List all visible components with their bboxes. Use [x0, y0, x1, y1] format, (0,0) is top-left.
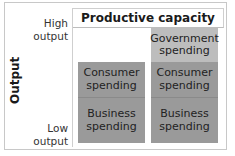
- y-label-high-line1: High: [20, 17, 68, 30]
- y-label-high-line2: output: [20, 30, 68, 43]
- label-line: spending: [86, 121, 136, 134]
- header-productive-capacity: Productive capacity: [72, 8, 224, 28]
- label-line: Consumer: [156, 67, 212, 80]
- y-label-low-line1: Low: [20, 122, 68, 135]
- label-line: spending: [83, 80, 139, 93]
- y-label-low: Low output: [20, 122, 68, 148]
- y-label-high: High output: [20, 17, 68, 43]
- left-consumer-spending: Consumer spending: [78, 62, 145, 97]
- axis-title-output: Output: [8, 57, 22, 104]
- label-line: spending: [150, 45, 219, 58]
- label-line: spending: [159, 121, 209, 134]
- label-line: Consumer: [83, 67, 139, 80]
- y-label-low-line2: output: [20, 135, 68, 148]
- right-consumer-spending: Consumer spending: [151, 62, 218, 97]
- right-government-spending: Government spending: [151, 28, 218, 62]
- right-business-spending: Business spending: [151, 97, 218, 143]
- label-line: spending: [156, 80, 212, 93]
- label-line: Business: [86, 108, 136, 121]
- left-business-spending: Business spending: [78, 97, 145, 143]
- label-line: Business: [159, 108, 209, 121]
